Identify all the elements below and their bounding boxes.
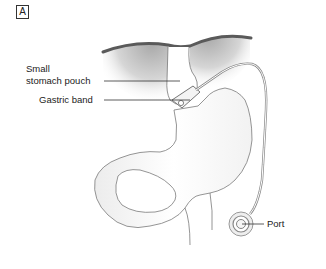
label-port: Port (267, 218, 284, 229)
label-gastric-band: Gastric band (39, 94, 93, 105)
stomach (95, 88, 252, 245)
label-small-stomach-pouch-line1: Small (26, 63, 50, 74)
label-small-stomach-pouch-line2: stomach pouch (26, 75, 90, 86)
